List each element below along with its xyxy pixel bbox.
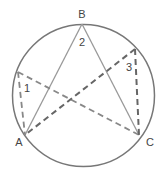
dashed-segment-P3-C [135, 49, 139, 135]
inscribed-angle-diagram: B 2 1 3 A C [0, 0, 161, 175]
label-A: A [15, 136, 23, 148]
dashed-segment-P3-A [25, 49, 135, 135]
label-angle-2: 2 [79, 36, 85, 48]
label-angle-3: 3 [126, 61, 132, 73]
label-angle-1: 1 [24, 82, 30, 94]
segment-BC [82, 24, 139, 135]
label-B: B [78, 8, 85, 20]
label-C: C [146, 136, 154, 148]
segment-AB [25, 24, 82, 135]
